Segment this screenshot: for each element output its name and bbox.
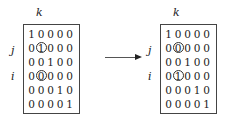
- matrix-cell: 0: [164, 70, 173, 82]
- matrix-cell: 0: [183, 42, 192, 54]
- matrix-cell: 0: [56, 28, 65, 40]
- circle-highlight-icon: [36, 70, 47, 81]
- matrix-cell: 1: [27, 28, 36, 40]
- matrix-cell: 0: [174, 42, 183, 54]
- matrix-cell: 0: [65, 42, 74, 54]
- matrix-cell: 0: [193, 56, 202, 68]
- matrix-cell: 0: [202, 28, 211, 40]
- matrix-cell: 1: [193, 84, 202, 96]
- matrix-cell: 0: [174, 84, 183, 96]
- matrix-cell: 1: [164, 28, 173, 40]
- matrix-cell: 0: [46, 42, 55, 54]
- row-label-i: i: [11, 70, 15, 83]
- matrix-cell: 0: [37, 28, 46, 40]
- matrix-cell: 0: [183, 98, 192, 110]
- matrix-cell: 1: [183, 56, 192, 68]
- matrix-cell: 0: [46, 98, 55, 110]
- circle-highlight-icon: [173, 42, 184, 53]
- matrix-cell: 0: [193, 42, 202, 54]
- matrix-cell: 0: [202, 84, 211, 96]
- matrix-cell: 1: [174, 70, 183, 82]
- matrix-cell: 1: [65, 98, 74, 110]
- matrix-cell: 1: [37, 42, 46, 54]
- right-matrix-panel: k j i 100000000000100010000001000001: [137, 0, 237, 120]
- circle-highlight-icon: [36, 42, 47, 53]
- matrix-cell: 0: [202, 42, 211, 54]
- matrix-cell: 1: [56, 84, 65, 96]
- matrix-cell: 0: [27, 84, 36, 96]
- circle-highlight-icon: [173, 70, 184, 81]
- matrix-cell: 0: [65, 28, 74, 40]
- matrix-cell: 0: [65, 70, 74, 82]
- matrix-cell: 0: [56, 98, 65, 110]
- matrix-cell: 0: [164, 84, 173, 96]
- matrix-cell: 0: [183, 70, 192, 82]
- matrix-cell: 0: [164, 98, 173, 110]
- matrix-cell: 0: [37, 70, 46, 82]
- matrix-cell: 0: [193, 70, 202, 82]
- column-label-k: k: [36, 6, 43, 19]
- matrix-cell: 0: [202, 56, 211, 68]
- matrix-cell: 0: [56, 42, 65, 54]
- matrix-cell: 0: [46, 70, 55, 82]
- matrix-cell: 0: [202, 70, 211, 82]
- matrix-cell: 0: [27, 98, 36, 110]
- matrix-cell: 0: [27, 70, 36, 82]
- matrix-cell: 0: [174, 56, 183, 68]
- transform-arrow-icon: [105, 57, 139, 58]
- row-label-j: j: [148, 44, 151, 57]
- matrix-cell: 0: [37, 98, 46, 110]
- matrix-cell: 0: [164, 56, 173, 68]
- matrix-cell: 0: [56, 70, 65, 82]
- matrix-cell: 1: [46, 56, 55, 68]
- matrix-cell: 1: [202, 98, 211, 110]
- matrix-cell: 0: [164, 42, 173, 54]
- matrix-cell: 0: [46, 28, 55, 40]
- matrix-cell: 0: [65, 56, 74, 68]
- row-label-i: i: [148, 70, 152, 83]
- matrix-cell: 0: [46, 84, 55, 96]
- matrix-cell: 0: [37, 84, 46, 96]
- matrix-cell: 0: [183, 84, 192, 96]
- matrix-cell: 0: [65, 84, 74, 96]
- matrix-cell: 0: [27, 56, 36, 68]
- matrix-cell: 0: [183, 28, 192, 40]
- matrix-cell: 0: [37, 56, 46, 68]
- row-label-j: j: [11, 44, 14, 57]
- matrix-cell: 0: [174, 28, 183, 40]
- left-matrix-panel: k j i 100000100000100000000001000001: [0, 0, 100, 120]
- matrix-cell: 0: [193, 28, 202, 40]
- matrix-cell: 0: [193, 98, 202, 110]
- matrix-cell: 0: [27, 42, 36, 54]
- column-label-k: k: [173, 6, 180, 19]
- matrix-cell: 0: [56, 56, 65, 68]
- matrix-cell: 0: [174, 98, 183, 110]
